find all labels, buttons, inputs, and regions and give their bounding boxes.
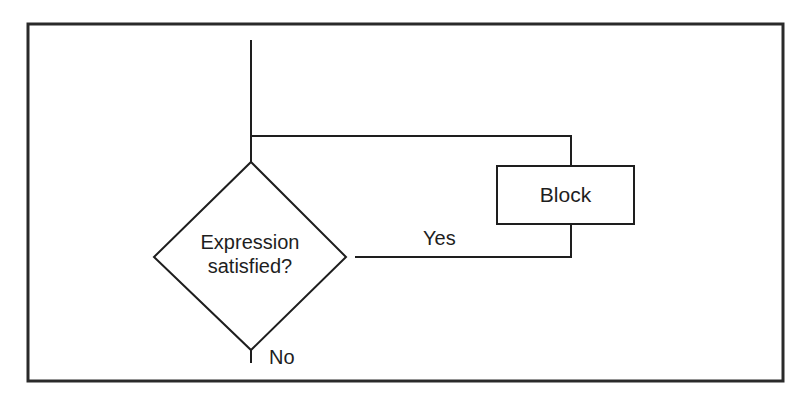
block-label: Block [497,166,634,224]
decision-label: Expression satisfied? [153,230,347,278]
flowchart-canvas [0,0,806,399]
decision-label-line2: satisfied? [153,254,347,278]
diagram-frame [28,24,783,381]
yes-label: Yes [423,228,456,248]
loop-back-connector [251,136,571,166]
yes-connector [355,224,571,257]
no-label: No [269,347,295,367]
decision-label-line1: Expression [153,230,347,254]
